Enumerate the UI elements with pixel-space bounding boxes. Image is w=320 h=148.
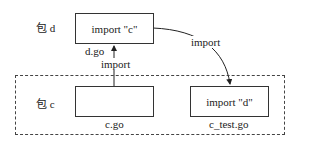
edge-label-d-to-ctest: import [191,36,220,48]
file-box-d-go: import "c" [75,13,154,44]
package-d-label: 包 d [36,19,55,35]
package-c-label: 包 c [36,95,55,111]
file-box-c-test-go: import "d" [190,86,269,117]
edge-label-c-to-d: import [101,58,130,70]
file-name-c-go: c.go [105,118,124,130]
file-box-c-go [75,86,154,117]
file-name-c-test-go: c_test.go [209,118,248,130]
file-content: import "d" [206,96,253,108]
file-name-d-go: d.go [85,45,104,57]
file-content: import "c" [92,23,138,35]
